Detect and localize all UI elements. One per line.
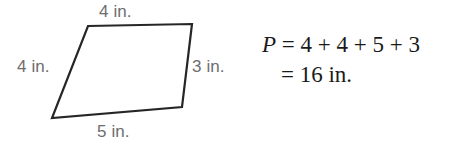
side-label-bottom: 5 in. <box>97 122 130 141</box>
equation-line-2: = 16 in. <box>281 60 463 90</box>
quadrilateral-outline <box>52 24 192 118</box>
figure-page: 4 in. 4 in. 3 in. 5 in. P = 4 + 4 + 5 + … <box>0 0 463 154</box>
equation-variable-p: P <box>262 32 276 57</box>
quadrilateral-figure: 4 in. 4 in. 3 in. 5 in. <box>0 0 240 154</box>
side-label-top: 4 in. <box>99 2 132 21</box>
side-label-right: 3 in. <box>192 57 225 76</box>
equation-line-1-expression: = 4 + 4 + 5 + 3 <box>276 32 420 57</box>
side-label-left: 4 in. <box>17 57 50 76</box>
equation-line-1: P = 4 + 4 + 5 + 3 <box>262 30 463 60</box>
perimeter-equation: P = 4 + 4 + 5 + 3 = 16 in. <box>258 30 463 110</box>
